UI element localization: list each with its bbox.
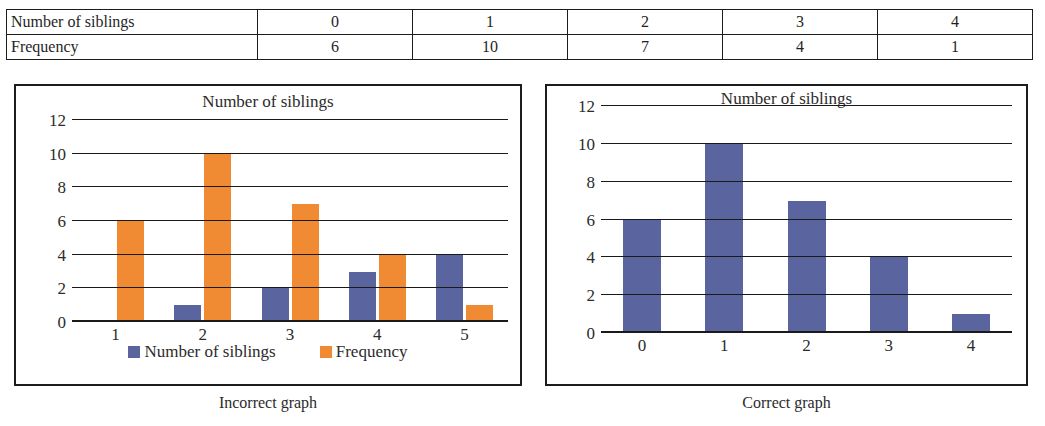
frequency-table: Number of siblings 0 1 2 3 4 Frequency 6… — [6, 9, 1033, 60]
x-axis-line: 0 — [72, 320, 508, 322]
legend-label-siblings: Number of siblings — [144, 342, 275, 362]
table-body: Number of siblings 0 1 2 3 4 Frequency 6… — [7, 10, 1033, 60]
bar-group — [72, 120, 159, 322]
bar-group — [765, 106, 847, 333]
y-axis-tick-label: 0 — [58, 314, 67, 331]
bar — [788, 201, 826, 333]
plot-area: 01234 024681012 — [601, 106, 1012, 333]
bar — [117, 221, 144, 322]
y-axis-tick-label: 4 — [58, 246, 67, 263]
bar-series-container — [72, 120, 508, 322]
cell-frequency-4: 1 — [878, 35, 1033, 60]
cell-siblings-3: 3 — [723, 10, 878, 35]
y-axis-tick-label: 2 — [58, 280, 67, 297]
bar — [204, 154, 231, 322]
gridline: 6 — [601, 219, 1012, 220]
cell-frequency-3: 4 — [723, 35, 878, 60]
bar — [870, 257, 908, 333]
legend-swatch-blue — [128, 346, 140, 358]
cell-frequency-1: 10 — [413, 35, 568, 60]
chart-legend: Number of siblings Frequency — [16, 342, 520, 362]
y-axis-tick-label: 10 — [578, 135, 595, 152]
y-axis-tick-label: 12 — [578, 98, 595, 115]
bar-group — [930, 106, 1012, 333]
x-axis-tick-label: 2 — [765, 336, 847, 356]
legend-entry-siblings: Number of siblings — [128, 342, 275, 362]
plot-area: 12345 024681012 — [72, 120, 508, 322]
caption-correct-graph: Correct graph — [545, 394, 1028, 412]
legend-swatch-orange — [320, 346, 332, 358]
x-axis-line: 0 — [601, 331, 1012, 333]
gridline: 8 — [72, 186, 508, 187]
y-axis-tick-label: 6 — [587, 211, 596, 228]
bar — [292, 204, 319, 322]
gridline: 10 — [72, 153, 508, 154]
bar — [705, 144, 743, 333]
gridline: 2 — [72, 287, 508, 288]
legend-label-frequency: Frequency — [336, 342, 408, 362]
bar-series-container — [601, 106, 1012, 333]
y-axis-tick-label: 0 — [587, 325, 596, 342]
bar — [349, 272, 376, 323]
bar-group — [246, 120, 333, 322]
y-axis-tick-label: 6 — [58, 213, 67, 230]
gridline: 6 — [72, 220, 508, 221]
x-axis-tick-label: 4 — [930, 336, 1012, 356]
table-row: Number of siblings 0 1 2 3 4 — [7, 10, 1033, 35]
cell-frequency-0: 6 — [258, 35, 413, 60]
table-row: Frequency 6 10 7 4 1 — [7, 35, 1033, 60]
y-axis-tick-label: 8 — [587, 173, 596, 190]
caption-incorrect-graph: Incorrect graph — [14, 394, 522, 412]
gridline: 8 — [601, 181, 1012, 182]
y-axis-tick-label: 2 — [587, 287, 596, 304]
incorrect-graph-panel: Number of siblings 12345 024681012 Numbe… — [14, 84, 522, 386]
cell-siblings-4: 4 — [878, 10, 1033, 35]
row-header-siblings: Number of siblings — [7, 10, 258, 35]
bar-group — [334, 120, 421, 322]
x-axis-tick-label: 3 — [848, 336, 930, 356]
bar-group — [683, 106, 765, 333]
bar-group — [848, 106, 930, 333]
bar-group — [159, 120, 246, 322]
y-axis-tick-label: 8 — [58, 179, 67, 196]
gridline: 2 — [601, 294, 1012, 295]
cell-siblings-0: 0 — [258, 10, 413, 35]
gridline: 12 — [601, 105, 1012, 106]
y-axis-tick-label: 12 — [49, 112, 66, 129]
cell-siblings-1: 1 — [413, 10, 568, 35]
legend-entry-frequency: Frequency — [320, 342, 408, 362]
gridline: 12 — [72, 119, 508, 120]
gridline: 4 — [72, 254, 508, 255]
correct-graph-panel: Number of siblings 01234 024681012 — [545, 84, 1028, 386]
gridline: 10 — [601, 143, 1012, 144]
bar-group — [601, 106, 683, 333]
bar-group — [421, 120, 508, 322]
y-axis-tick-label: 10 — [49, 145, 66, 162]
row-header-frequency: Frequency — [7, 35, 258, 60]
x-axis-tick-label: 0 — [601, 336, 683, 356]
y-axis-tick-label: 4 — [587, 249, 596, 266]
cell-frequency-2: 7 — [568, 35, 723, 60]
bar — [623, 220, 661, 334]
x-axis-tick-label: 1 — [683, 336, 765, 356]
x-axis-labels: 01234 — [601, 336, 1012, 356]
cell-siblings-2: 2 — [568, 10, 723, 35]
bar — [262, 288, 289, 322]
gridline: 4 — [601, 256, 1012, 257]
chart-title: Number of siblings — [16, 92, 520, 112]
